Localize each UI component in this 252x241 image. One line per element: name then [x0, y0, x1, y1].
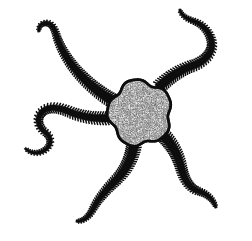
brittle-star-figure [0, 0, 252, 241]
illustration-canvas: Black and white line drawing of a brittl… [0, 0, 252, 241]
